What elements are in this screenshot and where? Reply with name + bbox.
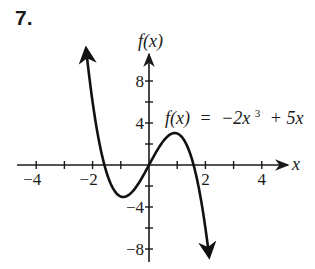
x-tick-label: 2 [201,170,210,189]
equation-label: f(x) = −2x 3 + 5x [165,101,303,129]
y-tick-label: −4 [126,198,145,217]
x-tick-label: −2 [80,170,98,189]
function-curve [86,49,209,256]
x-tick-label: −4 [23,170,42,189]
y-tick-label: 4 [136,114,145,133]
y-tick-label: −8 [126,240,144,259]
equation-equals: = [200,108,210,128]
x-axis-label: x [291,154,300,174]
y-axis-label: f(x) [138,31,163,52]
equation-exponent: 3 [255,107,261,119]
equation-term-a: −2x [221,108,250,128]
equation-term-b: + 5x [270,108,304,128]
equation-fx: f(x) [165,108,190,129]
x-tick-label: 4 [258,170,267,189]
y-tick-label: 8 [136,72,145,91]
function-graph: −4−22484−4−8 x f(x) f(x) = −2x 3 + 5x [0,0,315,269]
